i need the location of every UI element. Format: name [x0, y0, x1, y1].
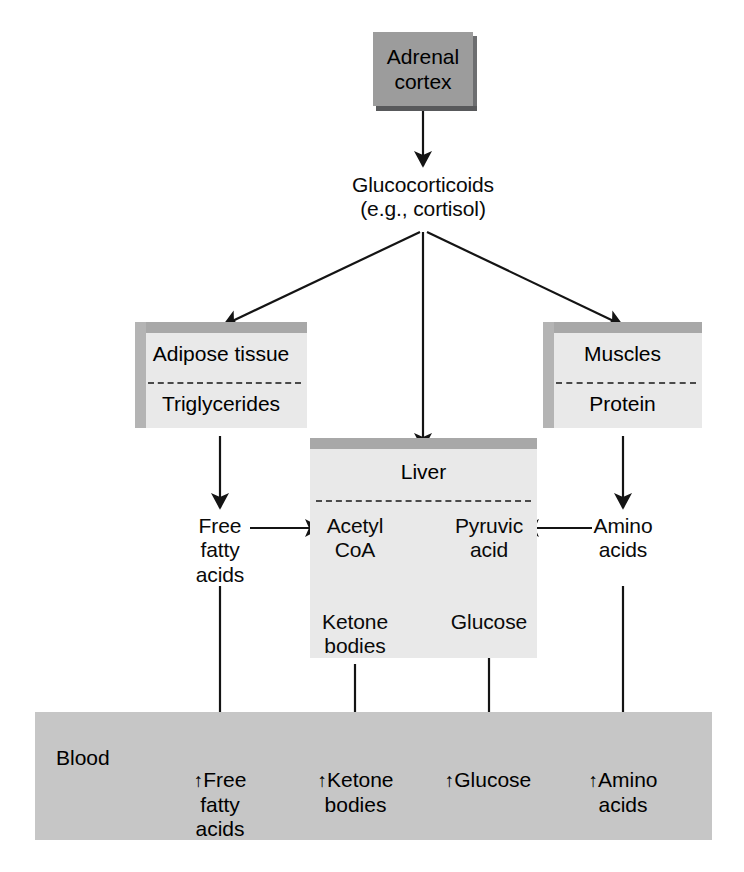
- increase-arrow-icon: ↑: [317, 770, 327, 791]
- increase-arrow-icon: ↑: [194, 770, 204, 791]
- ketone-bodies-label: Ketone bodies: [305, 610, 405, 659]
- increase-arrow-icon: ↑: [445, 770, 455, 791]
- muscles-title: Muscles: [543, 342, 702, 366]
- edge-glucocorticoids-to-adipose: [224, 232, 420, 325]
- liver-box-divider: [316, 500, 531, 502]
- acetyl-coa-label: Acetyl CoA: [305, 514, 405, 563]
- adipose-tissue-box: Adipose tissue Triglycerides: [135, 322, 307, 428]
- glucocorticoids-label: Glucocorticoids (e.g., cortisol): [303, 173, 543, 222]
- muscles-box-divider: [556, 382, 696, 384]
- muscles-box: Muscles Protein: [543, 322, 702, 428]
- increase-arrow-icon: ↑: [588, 770, 598, 791]
- blood-label: Blood: [56, 746, 110, 770]
- muscles-substrate-label: Protein: [543, 392, 702, 416]
- blood-entry-label: Ketone bodies: [325, 768, 394, 815]
- glucose-label: Glucose: [434, 610, 544, 634]
- flow-diagram: Adrenal cortex Glucocorticoids (e.g., co…: [0, 0, 744, 872]
- blood-entry-ketone-bodies: ↑Ketone bodies: [303, 744, 408, 817]
- adipose-substrate-label: Triglycerides: [135, 392, 307, 416]
- adipose-tissue-title: Adipose tissue: [135, 342, 307, 366]
- adrenal-cortex-label: Adrenal cortex: [373, 32, 473, 94]
- blood-entry-label: Free fatty acids: [195, 768, 246, 840]
- adrenal-cortex-box: Adrenal cortex: [373, 32, 473, 106]
- blood-entry-label: Amino acids: [598, 768, 658, 815]
- adrenal-box-shadow-bottom: [376, 106, 477, 111]
- blood-entry-glucose: ↑Glucose: [432, 744, 544, 793]
- muscles-box-bevel-top: [543, 322, 702, 333]
- adipose-box-divider: [148, 382, 301, 384]
- adipose-box-bevel-top: [135, 322, 307, 333]
- blood-entry-amino-acids: ↑Amino acids: [572, 744, 674, 817]
- blood-entry-free-fatty-acids: ↑Free fatty acids: [170, 744, 270, 841]
- free-fatty-acids-label: Free fatty acids: [170, 514, 270, 587]
- adrenal-box-shadow-right: [473, 36, 477, 111]
- amino-acids-label: Amino acids: [573, 514, 673, 563]
- blood-entry-label: Glucose: [454, 768, 531, 791]
- edge-glucocorticoids-to-muscles: [427, 232, 622, 325]
- liver-title: Liver: [310, 460, 537, 484]
- pyruvic-acid-label: Pyruvic acid: [439, 514, 539, 563]
- liver-box-bevel-top: [310, 438, 537, 449]
